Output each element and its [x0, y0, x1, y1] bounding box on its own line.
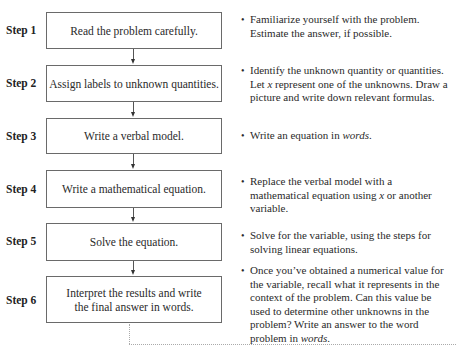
step-3-box: Write a verbal model. — [46, 118, 222, 154]
arrow-down-icon — [131, 164, 135, 169]
bullet-icon: • — [241, 175, 245, 189]
step-6-note-text-b: . — [327, 332, 330, 344]
bullet-icon: • — [241, 129, 245, 143]
dotted-connector-horizontal — [129, 344, 456, 345]
arrow-down-icon — [131, 112, 135, 117]
step-3-label: Step 3 — [6, 129, 42, 143]
step-1-box-text: Read the problem carefully. — [70, 24, 198, 38]
step-6-note-text-a: Once you’ve obtained a numerical value f… — [250, 264, 444, 344]
step-6-box-text-line2: the final answer in words. — [74, 300, 193, 314]
step-6-label: Step 6 — [6, 293, 42, 307]
bullet-icon: • — [241, 229, 245, 243]
step-4-label: Step 4 — [6, 182, 42, 196]
step-4-note: • Replace the verbal model with a mathem… — [241, 175, 453, 216]
step-4-box: Write a mathematical equation. — [46, 170, 222, 208]
arrow-down-icon — [131, 270, 135, 275]
arrow-down-icon — [131, 59, 135, 64]
step-1-note-text: Familiarize yourself with the problem. E… — [250, 13, 420, 39]
step-3-box-text: Write a verbal model. — [84, 129, 184, 143]
step-2-label: Step 2 — [6, 76, 42, 90]
emphasis-words: words — [342, 129, 369, 141]
step-5-box-text: Solve the equation. — [90, 235, 178, 249]
step-3-note-text-a: Write an equation in — [250, 129, 342, 141]
step-1-label: Step 1 — [6, 23, 42, 37]
step-3-note: • Write an equation in words. — [241, 129, 453, 143]
dotted-connector-vertical — [129, 324, 130, 344]
step-2-note-text-b: represent one of the unknowns. Draw a pi… — [250, 78, 448, 104]
step-5-note: • Solve for the variable, using the step… — [241, 229, 453, 256]
step-2-box-text: Assign labels to unknown quantities. — [49, 77, 219, 91]
step-6-box-text-line1: Interpret the results and write — [66, 286, 201, 300]
step-2-note: • Identify the unknown quantity or quant… — [241, 64, 453, 105]
bullet-icon: • — [241, 64, 245, 78]
emphasis-words: words — [301, 332, 328, 344]
step-5-note-text: Solve for the variable, using the steps … — [250, 229, 431, 255]
step-6-box: Interpret the results and write the fina… — [46, 276, 222, 323]
step-4-note-text-a: Replace the verbal model with a mathemat… — [250, 175, 392, 201]
step-6-note: • Once you’ve obtained a numerical value… — [241, 264, 453, 346]
step-2-box: Assign labels to unknown quantities. — [46, 65, 222, 102]
arrow-down-icon — [131, 217, 135, 222]
step-1-note: • Familiarize yourself with the problem.… — [241, 13, 453, 40]
step-5-box: Solve the equation. — [46, 223, 222, 261]
step-3-note-text-b: . — [369, 129, 372, 141]
step-1-box: Read the problem carefully. — [46, 12, 222, 49]
bullet-icon: • — [241, 13, 245, 27]
step-5-label: Step 5 — [6, 234, 42, 248]
step-4-box-text: Write a mathematical equation. — [62, 182, 206, 196]
bullet-icon: • — [241, 264, 245, 278]
